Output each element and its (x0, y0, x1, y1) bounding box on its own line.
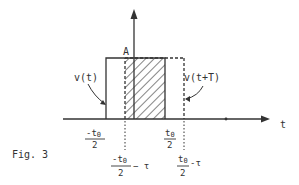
t-axis-arrow-icon (261, 116, 270, 123)
svg-text:2: 2 (180, 168, 185, 178)
tick-label-neg-half-t0: -t0 2 (85, 128, 105, 150)
svg-text:-τ: -τ (190, 158, 201, 168)
svg-text:-t0: -t0 (112, 154, 127, 165)
svg-text:2: 2 (167, 140, 172, 150)
figure-canvas: A v(t) v(t+T) t Fig. 3 -t0 2 t0 2 -t0 2 … (0, 0, 299, 185)
tick-label-half-t0-minus-tau: t0 2 -τ (177, 154, 201, 178)
svg-text:-t0: -t0 (86, 128, 101, 139)
svg-text:2: 2 (118, 168, 123, 178)
v-t-plus-T-label: v(t+T) (184, 72, 220, 83)
v-t-label: v(t) (74, 72, 98, 83)
overlap-hatched-region (125, 58, 165, 119)
tick-label-half-t0: t0 2 (164, 128, 176, 150)
t-axis (63, 116, 270, 123)
svg-text:− τ: − τ (133, 161, 149, 171)
figure-caption: Fig. 3 (12, 149, 48, 160)
v-t-plus-T-pointer-arrowhead-icon (185, 96, 190, 102)
tick-label-neg-half-t0-minus-tau: -t0 2 − τ (111, 154, 149, 178)
svg-text:2: 2 (92, 140, 97, 150)
amplitude-label: A (123, 46, 129, 57)
pulse-v-t (106, 58, 125, 119)
axis-point-marker (225, 118, 228, 121)
svg-text:t0: t0 (178, 154, 188, 165)
svg-text:t0: t0 (165, 128, 175, 139)
amplitude-axis-arrow-icon (131, 9, 138, 19)
t-axis-label: t (280, 119, 286, 130)
